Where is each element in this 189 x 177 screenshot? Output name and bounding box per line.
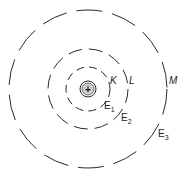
- label-l: L: [129, 75, 135, 86]
- label-e1: E1: [104, 100, 115, 113]
- plus-sign: +: [85, 84, 91, 95]
- atom-diagram: + K L M E1 E2 E3: [0, 0, 189, 177]
- label-m: M: [169, 75, 178, 86]
- label-e3: E3: [158, 128, 169, 141]
- label-k: K: [110, 75, 118, 86]
- nucleus: +: [80, 81, 96, 97]
- label-e2: E2: [121, 112, 132, 125]
